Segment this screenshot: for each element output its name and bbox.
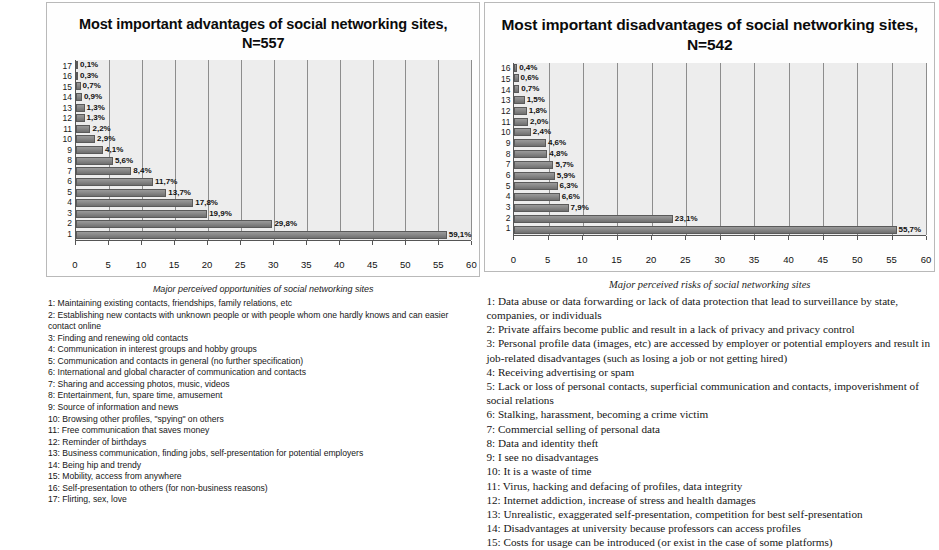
advantages-legend-item: 2: Establishing new contacts with unknow… [48, 310, 478, 333]
disadvantages-legend-item: 7: Commercial selling of personal data [486, 422, 933, 436]
advantages-bar-value-label: 13,7% [168, 189, 191, 197]
disadvantages-bar [514, 226, 896, 234]
advantages-bar-value-label: 29,8% [274, 220, 297, 228]
advantages-x-tick-label: 35 [301, 259, 312, 270]
disadvantages-x-tick [857, 236, 858, 240]
advantages-bar [76, 231, 447, 239]
advantages-x-tick-label: 50 [400, 259, 411, 270]
disadvantages-category-label: 7 [493, 160, 510, 170]
disadvantages-bar [514, 215, 672, 223]
disadvantages-x-tick [617, 236, 618, 240]
advantages-plot-wrap: 1716151413121110987654321 0,1%0,3%0,7%0,… [55, 60, 471, 272]
disadvantages-bar-value-label: 1,8% [529, 107, 547, 115]
disadvantages-x-tick-label: 45 [818, 254, 829, 265]
advantages-bar [76, 146, 103, 154]
disadvantages-bar [514, 128, 530, 136]
advantages-x-tick-label: 55 [433, 259, 444, 270]
advantages-plot-area: 0,1%0,3%0,7%0,9%1,3%1,3%2,2%2,9%4,1%5,6%… [75, 60, 471, 241]
disadvantages-bar [514, 172, 554, 180]
disadvantages-bar [514, 107, 526, 115]
disadvantages-x-tick [720, 236, 721, 240]
advantages-x-tick [141, 241, 142, 245]
advantages-x-tick [207, 241, 208, 245]
advantages-category-label: 4 [55, 198, 72, 208]
disadvantages-bar-row: 4,6% [514, 139, 926, 147]
disadvantages-bars: 0,4%0,6%0,7%1,5%1,8%2,0%2,4%4,6%4,8%5,7%… [514, 63, 926, 235]
disadvantages-x-tick-label: 25 [680, 254, 691, 265]
disadvantages-x-tick-label: 30 [714, 254, 725, 265]
disadvantages-bar [514, 85, 519, 93]
advantages-bar [76, 199, 193, 207]
disadvantages-legend-item: 11: Virus, hacking and defacing of profi… [486, 479, 933, 493]
advantages-bar-row: 4,1% [76, 146, 471, 154]
disadvantages-x-tick [548, 236, 549, 240]
advantages-category-label: 10 [55, 135, 72, 145]
advantages-legend-item: 5: Communication and contacts in general… [48, 356, 478, 368]
advantages-bar-row: 19,9% [76, 210, 471, 218]
advantages-x-tick-label: 15 [169, 259, 180, 270]
advantages-legend-item: 1: Maintaining existing contacts, friend… [48, 298, 478, 310]
disadvantages-bar-value-label: 0,7% [521, 85, 539, 93]
advantages-legend-item: 11: Free communication that saves money [48, 425, 478, 437]
disadvantages-bar-row: 0,6% [514, 74, 926, 82]
advantages-bar-value-label: 2,2% [92, 125, 110, 133]
disadvantages-category-label: 4 [493, 192, 510, 202]
disadvantages-x-tick [892, 236, 893, 240]
disadvantages-x-tick [685, 236, 686, 240]
advantages-bar [76, 104, 85, 112]
disadvantages-legend: 1: Data abuse or data forwarding or lack… [484, 294, 935, 550]
advantages-category-label: 16 [55, 72, 72, 82]
advantages-bar-row: 0,3% [76, 72, 471, 80]
advantages-bar [76, 114, 85, 122]
advantages-bar-row: 1,3% [76, 114, 471, 122]
advantages-bar-row: 17,8% [76, 199, 471, 207]
disadvantages-bar-row: 5,7% [514, 161, 926, 169]
advantages-category-label: 9 [55, 145, 72, 155]
disadvantages-x-tick [788, 236, 789, 240]
advantages-x-tick-label: 0 [72, 259, 77, 270]
disadvantages-gridline [926, 63, 927, 235]
disadvantages-bar-value-label: 7,9% [571, 204, 589, 212]
disadvantages-x-tick-label: 15 [611, 254, 622, 265]
disadvantages-legend-item: 5: Lack or loss of personal contacts, su… [486, 379, 933, 407]
disadvantages-bar-value-label: 5,7% [555, 161, 573, 169]
advantages-category-label: 8 [55, 156, 72, 166]
advantages-bar [76, 189, 166, 197]
disadvantages-bar [514, 118, 528, 126]
disadvantages-bar-row: 0,7% [514, 85, 926, 93]
advantages-category-label: 6 [55, 177, 72, 187]
disadvantages-panel: Most important disadvantages of social n… [484, 2, 935, 533]
disadvantages-bar-row: 1,5% [514, 96, 926, 104]
disadvantages-x-tick-label: 60 [921, 254, 932, 265]
advantages-bar [76, 167, 131, 175]
disadvantages-x-axis [513, 236, 926, 254]
advantages-x-tick [372, 241, 373, 245]
advantages-x-tick [240, 241, 241, 245]
disadvantages-legend-item: 9: I see no disadvantages [486, 450, 933, 464]
disadvantages-x-tick [754, 236, 755, 240]
disadvantages-legend-item: 13: Unrealistic, exaggerated self-presen… [486, 507, 933, 521]
advantages-gridline [471, 60, 472, 240]
advantages-bar [76, 135, 95, 143]
advantages-bar [76, 178, 153, 186]
advantages-bar-row: 0,9% [76, 93, 471, 101]
advantages-x-tick [438, 241, 439, 245]
advantages-x-tick [75, 241, 76, 245]
advantages-x-tick [471, 241, 472, 245]
advantages-x-tick-label: 40 [334, 259, 345, 270]
advantages-bar-value-label: 0,1% [80, 61, 98, 69]
disadvantages-bar-row: 1,8% [514, 107, 926, 115]
disadvantages-bar [514, 161, 553, 169]
advantages-chart-box: Most important advantages of social netw… [46, 2, 480, 277]
disadvantages-legend-item: 12: Internet addiction, increase of stre… [486, 493, 933, 507]
advantages-bar [76, 220, 272, 228]
disadvantages-category-axis: 16151413121110987654321 [493, 63, 513, 235]
advantages-x-tick [273, 241, 274, 245]
advantages-bar-value-label: 59,1% [449, 231, 472, 239]
advantages-legend-item: 4: Communication in interest groups and … [48, 344, 478, 356]
disadvantages-bar-value-label: 6,6% [562, 193, 580, 201]
advantages-legend-item: 15: Mobility, access from anywhere [48, 471, 478, 483]
advantages-x-tick-label: 60 [466, 259, 477, 270]
disadvantages-x-tick [651, 236, 652, 240]
disadvantages-chart-box: Most important disadvantages of social n… [484, 2, 935, 272]
